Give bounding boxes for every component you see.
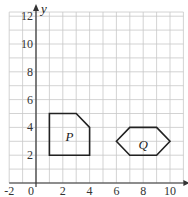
x-tick-label: 2 [60,184,66,197]
shape-label-p: P [65,129,74,144]
y-axis-arrow-icon [33,4,39,11]
coordinate-grid: y -2024681024681012 PQ [0,0,188,197]
y-tick-label: 2 [27,148,33,162]
x-tick-label: 4 [87,184,93,197]
y-tick-label: 4 [27,120,33,134]
grid-lines [9,12,183,183]
x-tick-label: -2 [4,184,14,197]
x-tick-label: 8 [140,184,146,197]
x-tick-label: 10 [164,184,176,197]
y-tick-label: 10 [21,37,33,51]
shapes: PQ [49,114,170,156]
x-axis-arrow-icon [183,180,188,186]
x-tick-label: 6 [113,184,119,197]
y-tick-label: 6 [27,93,33,107]
y-tick-label: 8 [27,65,33,79]
axes: y [9,1,188,187]
y-tick-label: 12 [21,9,33,23]
shape-label-q: Q [139,137,149,152]
x-tick-label: 0 [28,184,34,197]
y-axis-label: y [39,1,47,16]
